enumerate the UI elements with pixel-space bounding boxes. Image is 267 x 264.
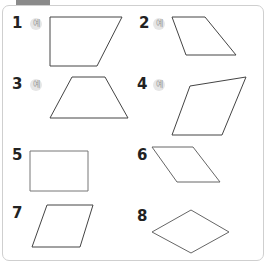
shape-6-parallelogram (152, 147, 220, 182)
shape-5-rectangle (30, 151, 88, 191)
shape-8-rhombus (152, 210, 229, 253)
shape-3-trapezoid (50, 77, 128, 118)
shape-1-trapezoid (50, 17, 122, 66)
shape-2-parallelogram (172, 17, 236, 55)
shape-4-quadrilateral (172, 77, 246, 135)
shapes-canvas (0, 0, 267, 264)
shape-7-parallelogram (32, 205, 93, 247)
